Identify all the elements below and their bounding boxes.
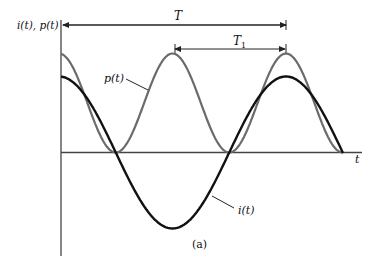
p-curve-label: p(t) xyxy=(104,72,124,85)
figure-canvas: i(t), p(t) t T T1 p(t) i(t) (a) xyxy=(0,0,382,269)
i-curve-label: i(t) xyxy=(238,204,255,217)
period-T1-label: T1 xyxy=(233,34,246,50)
p-curve xyxy=(61,54,343,153)
t-axis-label: t xyxy=(355,153,360,166)
i-label-leader xyxy=(212,196,234,208)
figure-caption: (a) xyxy=(192,238,207,251)
period-T-label: T xyxy=(174,9,183,23)
period-T1-dimension xyxy=(175,44,286,54)
y-axis-label: i(t), p(t) xyxy=(17,19,59,31)
p-label-leader xyxy=(126,79,148,90)
